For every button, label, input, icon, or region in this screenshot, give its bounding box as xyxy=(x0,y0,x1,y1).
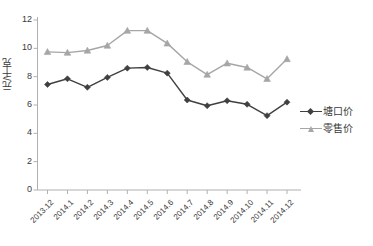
data-point-marker xyxy=(84,84,90,90)
data-point-marker xyxy=(224,98,230,104)
legend-swatch-1 xyxy=(300,106,322,118)
data-point-marker xyxy=(224,60,231,66)
triangle-marker-icon xyxy=(308,126,314,132)
data-point-marker xyxy=(284,56,291,62)
data-point-marker xyxy=(204,71,211,77)
data-point-marker xyxy=(204,103,210,109)
legend-item-1[interactable]: 塘口价 xyxy=(300,103,372,120)
legend-label-1: 塘口价 xyxy=(322,106,353,118)
legend-swatch-2 xyxy=(300,123,322,135)
data-point-marker xyxy=(44,81,50,87)
data-point-marker xyxy=(124,65,130,71)
data-point-marker xyxy=(244,101,250,107)
line-chart: 元/千克 024681012 2013.122014.12014.22014.3… xyxy=(0,0,373,246)
data-point-marker xyxy=(64,76,70,82)
legend-item-2[interactable]: 零售价 xyxy=(300,120,372,137)
diamond-marker-icon xyxy=(307,108,314,115)
data-point-marker xyxy=(144,64,150,70)
legend-label-2: 零售价 xyxy=(322,123,353,135)
data-point-marker xyxy=(104,74,110,80)
chart-legend: 塘口价零售价 xyxy=(300,103,372,137)
series-1 xyxy=(44,64,290,118)
data-point-marker xyxy=(164,40,171,46)
